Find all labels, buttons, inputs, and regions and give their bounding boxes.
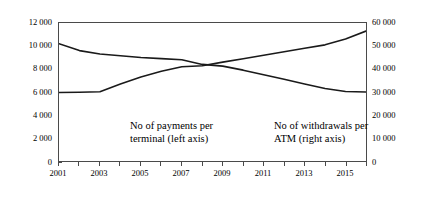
x-axis-tick [78, 162, 79, 166]
x-axis-tick [284, 162, 285, 166]
annotation-payments-line1: No of payments per [130, 120, 213, 133]
line-withdrawals-per-atm [59, 31, 366, 92]
left-axis-tick-label: 10 000 [4, 41, 52, 50]
annotation-withdrawals-line1: No of withdrawals per [274, 120, 368, 133]
right-axis-tick-label: 10 000 [372, 134, 395, 143]
x-axis-tick [119, 162, 120, 166]
x-axis-tick [346, 162, 347, 166]
line-payments-per-terminal [59, 44, 366, 92]
right-axis-tick-label: 60 000 [372, 18, 395, 27]
x-axis-tick [202, 162, 203, 166]
right-axis-tick-label: 20 000 [372, 111, 395, 120]
x-axis-tick [181, 162, 182, 166]
left-axis-tick-label: 6 000 [4, 88, 52, 97]
x-axis-tick [140, 162, 141, 166]
left-axis-tick-label: 4 000 [4, 111, 52, 120]
x-axis-tick-label: 2011 [243, 169, 283, 178]
x-axis-tick [304, 162, 305, 166]
left-axis-tick-label: 0 [4, 158, 52, 167]
annotation-withdrawals: No of withdrawals per ATM (right axis) [274, 120, 368, 145]
annotation-payments: No of payments per terminal (left axis) [130, 120, 213, 145]
right-axis-tick-label: 30 000 [372, 88, 395, 97]
left-axis-tick-label: 2 000 [4, 134, 52, 143]
x-axis-tick-label: 2001 [38, 169, 78, 178]
x-axis-tick-label: 2015 [325, 169, 365, 178]
annotation-payments-line2: terminal (left axis) [130, 133, 213, 146]
x-axis-tick [58, 162, 59, 166]
chart-container: 12 000 10 000 8 000 6 000 4 000 2 000 0 … [0, 0, 424, 201]
right-axis-tick-label: 0 [372, 158, 376, 167]
x-axis-tick [325, 162, 326, 166]
x-axis-tick [222, 162, 223, 166]
x-axis-tick [99, 162, 100, 166]
x-axis-tick-label: 2007 [161, 169, 201, 178]
x-axis-tick-label: 2003 [79, 169, 119, 178]
x-axis-tick [243, 162, 244, 166]
right-axis-tick-label: 50 000 [372, 41, 395, 50]
x-axis-tick-label: 2005 [120, 169, 160, 178]
x-axis-tick [366, 162, 367, 166]
left-axis-tick-label: 12 000 [4, 18, 52, 27]
right-axis-tick-label: 40 000 [372, 64, 395, 73]
x-axis-tick [263, 162, 264, 166]
plot-area: No of payments per terminal (left axis) … [58, 22, 367, 162]
x-axis-tick-label: 2013 [284, 169, 324, 178]
left-axis-tick-label: 8 000 [4, 64, 52, 73]
annotation-withdrawals-line2: ATM (right axis) [274, 133, 368, 146]
x-axis-tick [160, 162, 161, 166]
x-axis-tick-label: 2009 [202, 169, 242, 178]
